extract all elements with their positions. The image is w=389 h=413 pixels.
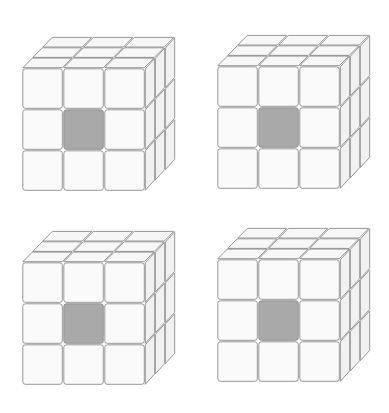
front-cell — [300, 149, 340, 189]
front-cell — [218, 108, 257, 148]
top-cell — [238, 228, 287, 238]
top-cell — [33, 48, 82, 58]
front-cell — [218, 260, 257, 300]
front-cell — [259, 342, 299, 382]
top-cell — [228, 46, 277, 56]
top-cell — [279, 35, 328, 45]
top-cell — [320, 35, 369, 45]
front-cell — [259, 67, 299, 107]
highlighted-cell — [259, 301, 299, 341]
top-cell — [228, 239, 277, 249]
front-cell — [218, 67, 257, 107]
top-cell — [269, 239, 318, 249]
front-cell — [64, 69, 104, 109]
top-cell — [64, 252, 113, 262]
top-cell — [74, 48, 123, 58]
front-cell — [218, 301, 257, 341]
top-cell — [115, 242, 164, 252]
top-cell — [218, 56, 267, 66]
top-cell — [238, 35, 287, 45]
top-cell — [84, 231, 133, 241]
top-cell — [64, 58, 113, 68]
top-cell — [218, 249, 267, 259]
front-cell — [105, 263, 145, 303]
top-cell — [23, 252, 72, 262]
front-face — [23, 69, 145, 191]
front-cell — [259, 149, 299, 189]
top-cell — [125, 231, 174, 241]
front-cell — [23, 110, 63, 150]
front-face — [23, 263, 145, 385]
front-face — [218, 67, 339, 189]
front-cell — [23, 69, 63, 109]
front-cell — [300, 260, 340, 300]
cube-bottom-left — [18, 227, 179, 389]
top-cell — [105, 252, 154, 262]
top-cell — [269, 46, 318, 56]
front-cell — [105, 304, 145, 344]
front-cell — [105, 345, 145, 385]
front-face — [218, 260, 339, 382]
front-cell — [64, 263, 104, 303]
top-cell — [300, 56, 349, 66]
top-cell — [300, 249, 349, 259]
top-cell — [115, 48, 164, 58]
front-cell — [23, 345, 63, 385]
highlighted-cell — [64, 110, 104, 150]
front-cell — [300, 67, 340, 107]
top-cell — [74, 242, 123, 252]
cube-bottom-right — [213, 224, 374, 386]
front-cell — [23, 304, 63, 344]
front-cell — [23, 151, 63, 191]
front-cell — [105, 110, 145, 150]
front-cell — [64, 345, 104, 385]
top-cell — [259, 56, 308, 66]
cube-top-left — [18, 33, 179, 195]
top-cell — [310, 46, 359, 56]
figure-canvas — [0, 0, 389, 413]
top-cell — [310, 239, 359, 249]
front-cell — [300, 342, 340, 382]
front-cell — [300, 108, 340, 148]
cube-top-right — [213, 31, 374, 193]
front-cell — [23, 263, 63, 303]
top-cell — [43, 231, 92, 241]
top-cell — [33, 242, 82, 252]
top-cell — [125, 37, 174, 47]
front-cell — [105, 151, 145, 191]
front-cell — [218, 149, 257, 189]
top-cell — [259, 249, 308, 259]
top-cell — [43, 37, 92, 47]
front-cell — [218, 342, 257, 382]
top-cell — [279, 228, 328, 238]
top-cell — [84, 37, 133, 47]
top-cell — [320, 228, 369, 238]
highlighted-cell — [259, 108, 299, 148]
top-cell — [105, 58, 154, 68]
highlighted-cell — [64, 304, 104, 344]
front-cell — [105, 69, 145, 109]
front-cell — [259, 260, 299, 300]
top-cell — [23, 58, 72, 68]
front-cell — [300, 301, 340, 341]
front-cell — [64, 151, 104, 191]
